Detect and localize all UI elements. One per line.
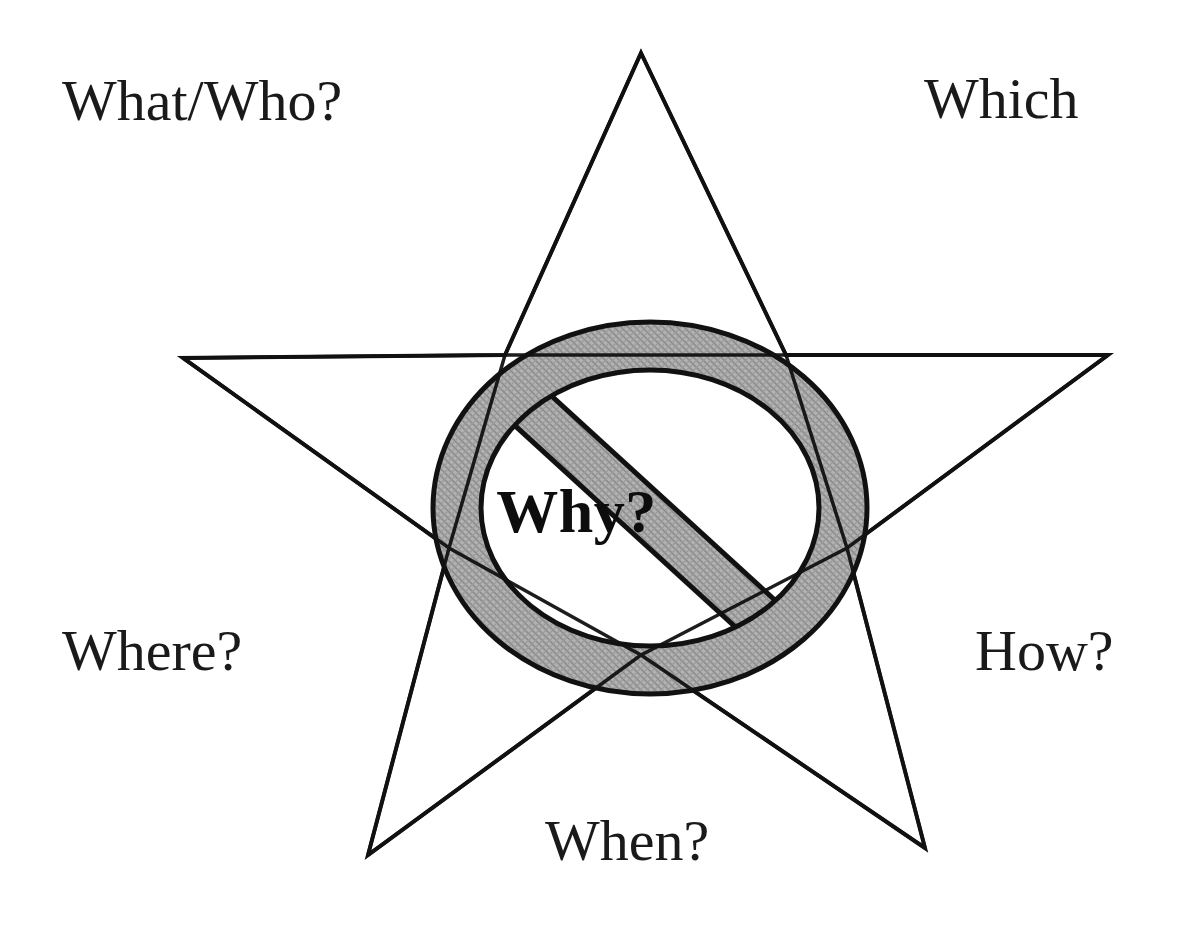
label-when: When?: [545, 812, 709, 870]
no-entry-sign: [183, 53, 1108, 855]
label-what-who: What/Who?: [62, 72, 342, 130]
label-which: Which: [924, 70, 1079, 128]
five-ws-star-diagram: What/Who? Which Where? How? When? Why?: [0, 0, 1177, 929]
label-where: Where?: [62, 622, 242, 680]
label-how: How?: [975, 622, 1114, 680]
diagram-canvas: [0, 0, 1177, 929]
